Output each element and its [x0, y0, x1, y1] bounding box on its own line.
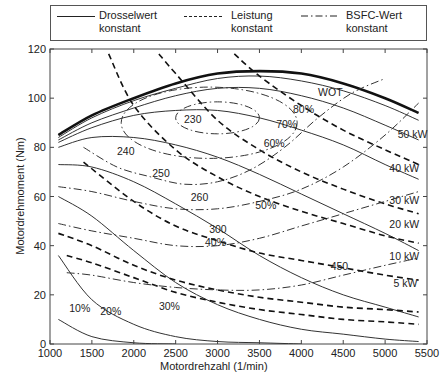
throttle-curve-10: [58, 319, 175, 344]
x-axis-title: Motordrehzahl (1/min): [160, 360, 268, 372]
bsfc-curve-260: [58, 103, 418, 210]
curve-label: 10 kW: [389, 250, 419, 262]
x-tick-label: 1500: [80, 347, 104, 359]
y-tick-label: 100: [28, 92, 46, 104]
curve-label: 50%: [255, 199, 276, 211]
curve-label: 5 kW: [393, 277, 417, 289]
plot-curves: [58, 54, 418, 344]
bsfc-curve-300: [58, 192, 418, 247]
y-tick-label: 60: [34, 191, 46, 203]
curve-label: 20%: [100, 305, 121, 317]
x-tick-label: 2000: [122, 347, 146, 359]
throttle-curve-WOT: [58, 71, 418, 135]
x-tick-label: 4000: [289, 347, 313, 359]
x-tick-label: 3500: [247, 347, 271, 359]
curve-label: 450: [331, 260, 349, 272]
curve-label: 40%: [205, 236, 226, 248]
curve-label: 250: [152, 167, 170, 179]
curve-label: 50 kW: [398, 128, 428, 140]
x-tick-label: 5500: [415, 347, 439, 359]
curve-label: 60%: [264, 137, 285, 149]
chart-plot: 1000150020002500300035004000450050005500…: [0, 0, 443, 383]
y-tick-label: 120: [28, 43, 46, 55]
y-axis-title: Motordrehmoment (Nm): [14, 136, 26, 256]
y-tick-label: 80: [34, 141, 46, 153]
y-tick-label: 40: [34, 240, 46, 252]
curve-label: 30 kW: [389, 194, 419, 206]
curve-label: 10%: [69, 302, 90, 314]
x-tick-label: 3000: [205, 347, 229, 359]
throttle-curve-30: [58, 197, 418, 342]
curve-label: 40 kW: [389, 162, 419, 174]
power-curve-10kW: [58, 233, 418, 312]
curve-label: 240: [117, 145, 135, 157]
curve-label: 230: [184, 113, 202, 125]
x-tick-label: 4500: [331, 347, 355, 359]
curve-label: 300: [209, 223, 227, 235]
throttle-curve-50: [58, 136, 418, 250]
curve-label: 70%: [276, 118, 297, 130]
curve-label: WOT: [318, 86, 343, 98]
curve-label: 80%: [293, 103, 314, 115]
throttle-curve-60: [58, 110, 418, 180]
curve-label: 260: [191, 191, 209, 203]
y-tick-label: 20: [34, 289, 46, 301]
power-curve-20kW: [84, 162, 419, 280]
x-tick-label: 2500: [163, 347, 187, 359]
y-tick-label: 0: [40, 338, 46, 350]
curve-label: 20 kW: [389, 218, 419, 230]
curve-label: 30%: [159, 300, 180, 312]
bsfc-curve-450: [67, 258, 419, 290]
x-tick-label: 5000: [373, 347, 397, 359]
